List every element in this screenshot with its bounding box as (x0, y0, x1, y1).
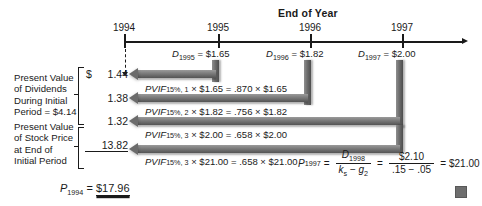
dividend-label-1996: D1996 = $1.82 (266, 48, 323, 62)
dividend-label-1997: D1997 = $2.00 (358, 48, 415, 62)
terminal-value-formula: P1997 = D1998 ks − g2 = $2.10 .15 − .05 … (298, 150, 480, 177)
total-value: $17.96 (96, 182, 130, 196)
terminal-frac1-num-sub: 1998 (349, 154, 365, 163)
pvif-name-row1: PVIF (145, 83, 166, 94)
axis-tick-1995 (218, 34, 220, 48)
stock-price-group-label-line2: of Stock Price (14, 132, 74, 143)
stock-price-group-bracket-nub (74, 146, 78, 147)
terminal-frac2-numerator: $2.10 (396, 152, 427, 163)
dividend-year-1995: 1995 (179, 53, 195, 62)
total-eq: = (83, 182, 96, 194)
stock-price-group-bracket (78, 127, 84, 169)
terminal-p-label: P (298, 158, 305, 169)
dividend-year-1996: 1996 (273, 53, 289, 62)
axis-tick-1994 (124, 34, 126, 48)
dividend-eq-1995: = (195, 48, 206, 59)
row2-amount: 1.38 (94, 92, 128, 104)
dividends-group-label-line3: During Initial (14, 95, 77, 106)
flow-arrow-head-row4-icon (129, 143, 138, 155)
pvif-expr-row1: × $1.65 = .870 × $1.65 (189, 83, 288, 94)
pvif-expr-row2: × $1.82 = .756 × $1.82 (189, 106, 288, 117)
axis-tick-1997 (402, 34, 404, 48)
terminal-fraction-1: D1998 ks − g2 (336, 150, 372, 177)
dividend-symbol-1997: D (358, 48, 365, 59)
row1-dollar-sign: $ (86, 68, 92, 80)
pvif-expr-row3: × $2.00 = .658 × $2.00 (189, 129, 288, 140)
pvif-sub-row1: 15%, 1 (166, 85, 188, 94)
dividends-group-label-line2: of Dividends (14, 83, 77, 94)
dividend-value-1996: $1.82 (300, 48, 324, 59)
terminal-frac1-den-minus: − (347, 164, 358, 175)
stock-price-group-label-line4: Initial Period (14, 155, 74, 166)
year-label-1994: 1994 (104, 22, 144, 33)
pvif-sub-row4: 15%, 3 (166, 158, 188, 167)
total-p-sub: 1994 (67, 188, 83, 197)
dividends-group-bracket-nub (74, 94, 78, 95)
stock-price-group-label: Present Value of Stock Price at End of I… (14, 121, 74, 167)
dividend-year-1997: 1997 (365, 53, 381, 62)
pvif-sub-row2: 15%, 2 (166, 108, 188, 117)
dividends-group-label-line4: Period = $4.14 (14, 106, 77, 117)
dividends-group-label: Present Value of Dividends During Initia… (14, 72, 77, 118)
terminal-frac1-denominator: ks − g2 (336, 164, 372, 177)
terminal-fraction-2: $2.10 .15 − .05 (389, 152, 434, 175)
terminal-p-sub: 1997 (305, 159, 321, 168)
pvif-sub-row3: 15%, 3 (166, 131, 188, 140)
row3-amount: 1.32 (94, 115, 128, 127)
pvif-expression-row4: PVIF15%, 3 × $21.00 = .658 × $21.00 (145, 156, 298, 167)
end-of-figure-square-icon (455, 186, 467, 198)
axis-tick-1996 (310, 34, 312, 48)
timeline-axis-arrow-icon (462, 38, 468, 44)
dividend-eq-1997: = (381, 48, 392, 59)
row4-amount: 13.82 (85, 139, 128, 152)
terminal-frac1-numerator: D1998 (339, 150, 368, 163)
pvif-expr-row4: × $21.00 = .658 × $21.00 (189, 156, 298, 167)
pvif-name-row4: PVIF (145, 156, 166, 167)
dividend-value-1997: $2.00 (392, 48, 416, 59)
terminal-value-result: $21.00 (449, 158, 480, 169)
pvif-name-row3: PVIF (145, 129, 166, 140)
terminal-frac2-denominator: .15 − .05 (389, 164, 434, 175)
flow-arrow-head-row2-icon (129, 92, 138, 104)
terminal-frac1-den-g-sub: 2 (364, 169, 368, 178)
row1-amount: 1.44 (94, 68, 128, 80)
dividends-group-label-line1: Present Value (14, 72, 77, 83)
dividend-symbol-1995: D (172, 48, 179, 59)
year-label-1997: 1997 (382, 22, 422, 33)
dividend-label-1995: D1995 = $1.65 (172, 48, 229, 62)
flow-bar-1995-horizontal (138, 70, 216, 78)
pvif-expression-row2: PVIF15%, 2 × $1.82 = .756 × $1.82 (145, 106, 287, 117)
stock-price-group-label-line3: at End of (14, 144, 74, 155)
present-value-total: P1994 = $17.96 (60, 182, 130, 197)
dividends-group-bracket (78, 67, 84, 125)
dividend-value-1995: $1.65 (206, 48, 230, 59)
terminal-frac1-num-d: D (342, 149, 349, 160)
stock-price-group-label-line1: Present Value (14, 121, 74, 132)
flow-bar-1997-horizontal (138, 117, 400, 125)
figure-title: End of Year (278, 7, 338, 19)
flow-arrow-head-row3-icon (129, 115, 138, 127)
year-label-1996: 1996 (290, 22, 330, 33)
terminal-eq-2: = (377, 158, 383, 169)
flow-arrow-head-row1-icon (129, 68, 138, 80)
pvif-expression-row3: PVIF15%, 3 × $2.00 = .658 × $2.00 (145, 129, 287, 140)
flow-bar-1996-horizontal (138, 94, 308, 102)
terminal-eq-3: = (440, 158, 446, 169)
dividend-symbol-1996: D (266, 48, 273, 59)
stock-valuation-timeline-figure: End of Year 1994 1995 1996 1997 D1995 = … (0, 0, 482, 206)
terminal-eq-1: = (324, 158, 330, 169)
pvif-name-row2: PVIF (145, 106, 166, 117)
pvif-expression-row1: PVIF15%, 1 × $1.65 = .870 × $1.65 (145, 83, 287, 94)
timeline-axis (124, 41, 464, 43)
dividend-eq-1996: = (289, 48, 300, 59)
year-label-1995: 1995 (198, 22, 238, 33)
